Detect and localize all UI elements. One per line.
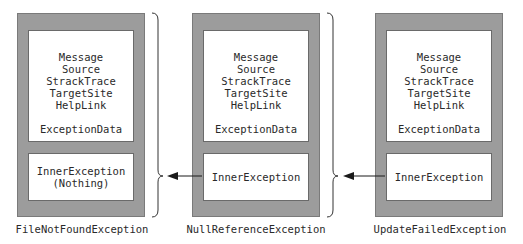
brace-icon — [152, 13, 163, 217]
connector-overlay — [0, 0, 523, 244]
arrowhead-icon — [167, 172, 178, 180]
brace-icon — [327, 13, 338, 217]
arrowhead-icon — [343, 172, 354, 180]
